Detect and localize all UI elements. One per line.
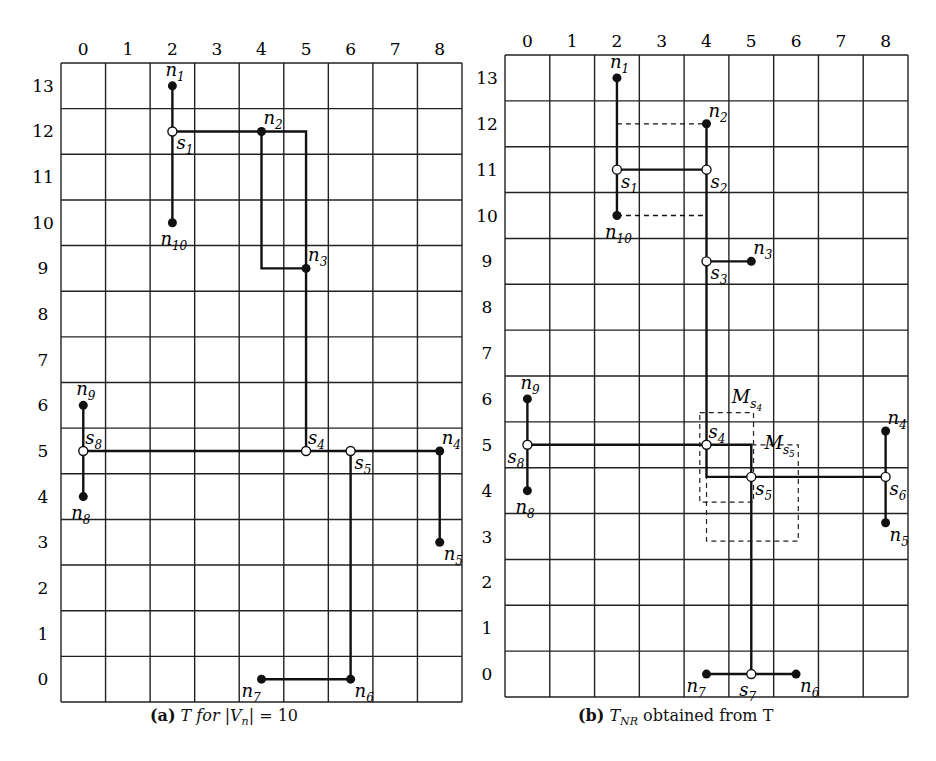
y-tick-label: 2: [482, 572, 493, 592]
terminal-node-n1: [612, 73, 621, 82]
steiner-node-s8: [523, 440, 532, 449]
caption-b: (b) TNR obtained from T: [578, 706, 773, 728]
node-label-s6: s6: [890, 478, 907, 503]
node-label-n5: n5: [890, 524, 909, 549]
x-tick-label: 2: [612, 31, 623, 51]
terminal-node-n9: [523, 394, 532, 403]
y-tick-label: 10: [476, 206, 498, 226]
grid-diagram-b: 012345678131211109876543210Ms4Ms5n1n2n3n…: [0, 0, 936, 761]
y-tick-label: 3: [482, 527, 493, 547]
y-tick-label: 6: [482, 389, 493, 409]
node-label-s5: s5: [755, 478, 772, 503]
y-tick-label: 11: [476, 160, 498, 180]
region-label: Ms4: [731, 386, 763, 413]
terminal-node-n7: [702, 670, 711, 679]
edge-solid: [707, 124, 886, 477]
steiner-node-s7: [747, 670, 756, 679]
node-label-n2: n2: [709, 100, 728, 125]
x-tick-label: 6: [791, 31, 802, 51]
y-tick-label: 4: [482, 481, 493, 501]
node-label-n3: n3: [753, 237, 773, 262]
node-label-n10: n10: [605, 221, 632, 246]
node-label-n8: n8: [515, 496, 535, 521]
y-tick-label: 7: [482, 343, 493, 363]
panel-b-tree-TNR: 012345678131211109876543210Ms4Ms5n1n2n3n…: [0, 0, 936, 761]
x-tick-label: 8: [880, 31, 891, 51]
x-tick-label: 1: [567, 31, 578, 51]
node-label-s7: s7: [739, 679, 756, 704]
y-tick-label: 13: [476, 68, 498, 88]
node-label-n4: n4: [888, 407, 907, 432]
y-tick-label: 1: [482, 618, 493, 638]
y-tick-label: 5: [482, 435, 493, 455]
y-tick-label: 12: [476, 114, 498, 134]
terminal-node-n8: [523, 486, 532, 495]
x-tick-label: 0: [522, 31, 533, 51]
node-label-s4: s4: [709, 421, 726, 446]
y-tick-label: 9: [482, 251, 493, 271]
x-tick-label: 4: [701, 31, 712, 51]
terminal-node-n10: [612, 211, 621, 220]
y-tick-label: 8: [482, 297, 493, 317]
x-tick-label: 7: [835, 31, 846, 51]
y-tick-label: 0: [482, 664, 493, 684]
x-tick-label: 5: [746, 31, 757, 51]
x-tick-label: 3: [656, 31, 667, 51]
